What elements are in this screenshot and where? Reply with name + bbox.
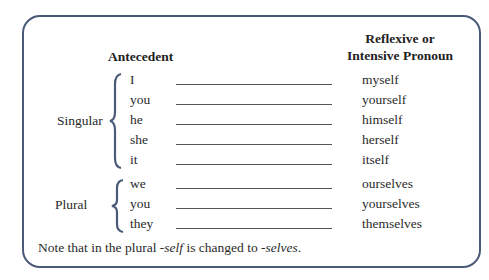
answer-line xyxy=(176,124,332,125)
note-term-selves: -selves xyxy=(261,240,298,255)
antecedent-you: you xyxy=(130,92,150,108)
antecedent-we: we xyxy=(130,176,146,192)
answer-line xyxy=(176,188,332,189)
antecedent-they: they xyxy=(130,216,153,232)
pronoun-header-line1: Reflexive or xyxy=(340,30,460,47)
pronoun-yourself: yourself xyxy=(362,92,406,108)
footnote: Note that in the plural -self is changed… xyxy=(38,240,301,256)
note-prefix: Note that in the plural xyxy=(38,240,160,255)
pronoun-yourselves: yourselves xyxy=(362,196,420,212)
antecedent-i: I xyxy=(130,72,135,88)
answer-line xyxy=(176,104,332,105)
brace-singular-icon xyxy=(108,72,124,170)
pronoun-ourselves: ourselves xyxy=(362,176,413,192)
note-middle: is changed to xyxy=(183,240,261,255)
pronoun-herself: herself xyxy=(362,132,399,148)
note-suffix: . xyxy=(298,240,301,255)
antecedent-you-plural: you xyxy=(130,196,150,212)
answer-line xyxy=(176,228,332,229)
group-label-singular: Singular xyxy=(57,113,103,129)
antecedent-header: Antecedent xyxy=(108,49,173,65)
answer-line xyxy=(176,164,332,165)
group-label-plural: Plural xyxy=(55,197,87,213)
antecedent-she: she xyxy=(130,132,148,148)
pronoun-himself: himself xyxy=(362,112,403,128)
antecedent-he: he xyxy=(130,112,143,128)
answer-line xyxy=(176,144,332,145)
answer-line xyxy=(176,84,332,85)
answer-line xyxy=(176,208,332,209)
pronoun-myself: myself xyxy=(362,72,399,88)
pronoun-header-line2: Intensive Pronoun xyxy=(340,47,460,64)
note-term-self: -self xyxy=(160,240,183,255)
pronoun-themselves: themselves xyxy=(362,216,422,232)
pronoun-itself: itself xyxy=(362,152,389,168)
pronoun-header: Reflexive or Intensive Pronoun xyxy=(340,30,460,64)
brace-plural-icon xyxy=(110,178,126,234)
antecedent-it: it xyxy=(130,152,138,168)
